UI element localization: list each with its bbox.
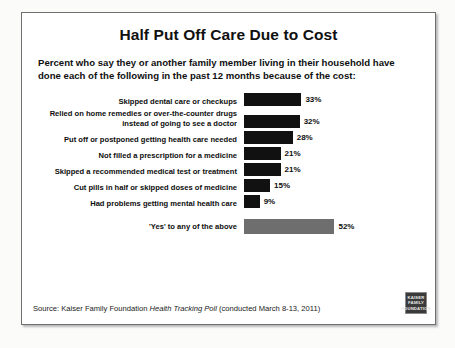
logo-line-3: FOUNDATION — [401, 306, 431, 311]
bar-label: Skipped a recommended medical test or tr… — [22, 167, 244, 176]
bar — [244, 219, 334, 234]
bar-label: 'Yes' to any of the above — [22, 222, 244, 231]
bar-value-label: 9% — [264, 197, 276, 206]
bar-label: Skipped dental care or checkups — [22, 97, 244, 106]
page-title: Half Put Off Care Due to Cost — [22, 26, 435, 44]
bar-label: Relied on home remedies or over-the-coun… — [22, 109, 244, 128]
bar-label: Had problems getting mental health care — [22, 199, 244, 208]
bar-track: 28% — [244, 131, 435, 144]
chart-row: Put off or postponed getting health care… — [22, 131, 435, 144]
bar — [244, 93, 301, 106]
chart-row: Cut pills in half or skipped doses of me… — [22, 179, 435, 192]
bar — [244, 163, 281, 176]
chart-row: Skipped dental care or checkups33% — [22, 93, 435, 106]
bar — [244, 115, 300, 128]
chart-row: Not filled a prescription for a medicine… — [22, 147, 435, 160]
bar-label: Put off or postponed getting health care… — [22, 135, 244, 144]
bar-track: 21% — [244, 163, 435, 176]
chart-row: 'Yes' to any of the above52% — [22, 219, 435, 234]
chart-row: Relied on home remedies or over-the-coun… — [22, 109, 435, 128]
source-publication: Health Tracking Poll — [150, 304, 217, 313]
kaiser-family-foundation-logo: KAISER FAMILY FOUNDATION — [405, 292, 427, 314]
bar-track: 33% — [244, 93, 435, 106]
bar-track: 32% — [244, 115, 435, 128]
bar — [244, 131, 293, 144]
bar-track: 21% — [244, 147, 435, 160]
bar-track: 9% — [244, 195, 435, 208]
bar-value-label: 32% — [304, 117, 320, 126]
bar — [244, 147, 281, 160]
source-suffix: (conducted March 8-13, 2011) — [217, 304, 320, 313]
bar-label: Not filled a prescription for a medicine — [22, 151, 244, 160]
bar-track: 52% — [244, 219, 435, 234]
bar — [244, 179, 270, 192]
chart-row: Had problems getting mental health care9… — [22, 195, 435, 208]
source-prefix: Source: Kaiser Family Foundation — [33, 304, 150, 313]
bar-value-label: 15% — [274, 181, 290, 190]
bar-value-label: 28% — [297, 133, 313, 142]
source-note: Source: Kaiser Family Foundation Health … — [33, 304, 320, 314]
bar-value-label: 33% — [305, 95, 321, 104]
bar-value-label: 21% — [285, 149, 301, 158]
bar-track: 15% — [244, 179, 435, 192]
bar-value-label: 21% — [285, 165, 301, 174]
bar-label: Cut pills in half or skipped doses of me… — [22, 183, 244, 192]
chart-subtitle: Percent who say they or another family m… — [38, 57, 419, 82]
slide-card: Half Put Off Care Due to Cost Percent wh… — [21, 12, 436, 325]
chart-row: Skipped a recommended medical test or tr… — [22, 163, 435, 176]
footer: Source: Kaiser Family Foundation Health … — [33, 292, 427, 314]
bar-chart: Skipped dental care or checkups33%Relied… — [22, 93, 435, 234]
bar — [244, 195, 260, 208]
bar-value-label: 52% — [338, 222, 354, 231]
